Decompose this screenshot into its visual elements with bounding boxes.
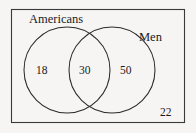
region-count-right-only: 50 [120, 65, 132, 77]
venn-diagram-figure: Americans Men 18 30 50 22 [0, 0, 196, 133]
left-set-label: Americans [29, 13, 83, 26]
region-count-left-only: 18 [36, 65, 48, 77]
right-set-label: Men [139, 31, 162, 44]
region-count-outside: 22 [160, 107, 172, 119]
region-count-intersection: 30 [79, 65, 91, 77]
